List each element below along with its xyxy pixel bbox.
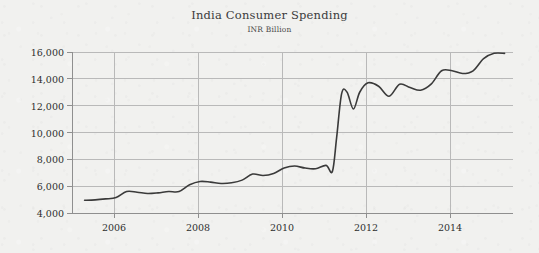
y-axis-tick-label: 8,000 bbox=[8, 154, 64, 165]
x-axis-tick-label: 2014 bbox=[420, 222, 480, 233]
x-axis-tick-label: 2010 bbox=[252, 222, 312, 233]
y-axis-tick-label: 10,000 bbox=[8, 127, 64, 138]
y-axis-tick-label: 16,000 bbox=[8, 47, 64, 58]
y-axis-tick-label: 14,000 bbox=[8, 73, 64, 84]
chart-container: India Consumer Spending INR Billion 4,00… bbox=[0, 0, 539, 253]
x-axis-tick-label: 2008 bbox=[168, 222, 228, 233]
line-chart-plot bbox=[0, 0, 539, 253]
y-axis-tick-label: 12,000 bbox=[8, 100, 64, 111]
y-axis-tick-label: 6,000 bbox=[8, 181, 64, 192]
y-axis-tick-label: 4,000 bbox=[8, 208, 64, 219]
data-series-line bbox=[85, 53, 505, 200]
x-axis-tick-label: 2006 bbox=[84, 222, 144, 233]
x-axis-tick-label: 2012 bbox=[336, 222, 396, 233]
